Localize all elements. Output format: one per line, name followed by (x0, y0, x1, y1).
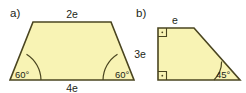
angle-label-a-bottom-right: 60° (115, 69, 130, 80)
angle-label-a-bottom-left: 60° (15, 69, 30, 80)
geometry-figure-svg: a) 2e 4e 60° 60° b) e 3e 45° (0, 0, 246, 93)
part-label-b: b) (136, 7, 146, 19)
side-label-a-top: 2e (66, 8, 78, 20)
side-label-b-left: 3e (134, 48, 146, 60)
part-label-a: a) (10, 7, 20, 19)
side-label-a-bottom: 4e (66, 82, 78, 93)
side-label-b-top: e (172, 14, 178, 26)
angle-label-b-bottom-right: 45° (216, 69, 231, 80)
geometry-figure-container: a) 2e 4e 60° 60° b) e 3e 45° (0, 0, 246, 93)
